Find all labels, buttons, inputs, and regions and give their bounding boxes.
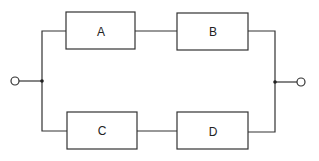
block-b-label: B — [209, 25, 217, 39]
block-d-label: D — [209, 125, 218, 139]
reliability-block-diagram: A B C D — [0, 0, 319, 161]
output-junction-dot — [273, 80, 277, 84]
left-bus-wire — [42, 31, 67, 131]
input-junction-dot — [40, 79, 44, 83]
right-bus-wire — [248, 31, 275, 132]
block-a-label: A — [97, 25, 105, 39]
block-c-label: C — [98, 124, 107, 138]
input-terminal-icon — [11, 77, 19, 85]
output-terminal-icon — [297, 78, 305, 86]
